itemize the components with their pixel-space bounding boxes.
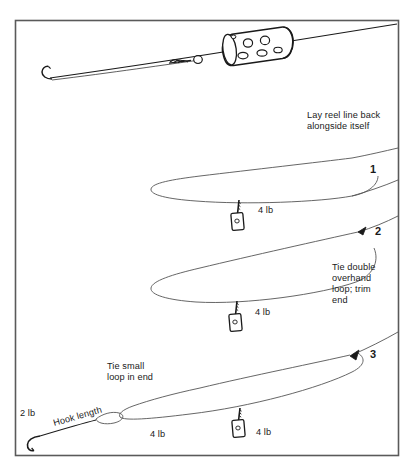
feeder-weight-icon (232, 408, 245, 437)
weight-label-step1: 4 lb (258, 205, 273, 216)
step-1-tag-line (352, 180, 398, 196)
step-2-arrow-icon (358, 227, 366, 235)
weight-label-hook-length: 2 lb (20, 408, 35, 419)
weight-label-step2: 4 lb (255, 307, 270, 318)
step-1-reel-line (352, 148, 398, 158)
step-marker-1: 1 (370, 163, 376, 176)
assembled-rig-top (42, 24, 397, 80)
annotation-lay-line-back: Lay reel line back alongside itself (307, 110, 380, 132)
diagram-frame (16, 21, 399, 456)
annotation-tie-double-overhand: Tie double overhand loop; trim end (332, 262, 376, 305)
step-3-loop (120, 352, 364, 419)
diagram-canvas (0, 0, 415, 474)
weight-label-step3-left: 4 lb (150, 429, 165, 440)
step-marker-2: 2 (375, 225, 381, 238)
annotation-tie-small-loop: Tie small loop in end (107, 361, 153, 383)
hook-length-line-top (52, 60, 200, 80)
weight-label-step3-right: 4 lb (256, 427, 271, 438)
feeder-weight-icon (231, 200, 244, 230)
feeder-weight-icon (229, 301, 242, 331)
swimfeeder-icon (221, 27, 293, 66)
bead-icon (194, 56, 203, 64)
hook-icon (27, 436, 40, 451)
step-3-diagram (27, 332, 398, 451)
step-marker-3: 3 (370, 348, 376, 361)
step-1-diagram (151, 148, 398, 230)
hook-icon (42, 66, 52, 79)
step-3-arrow-icon (350, 350, 359, 360)
fishing-rig-diagram: Lay reel line back alongside itself 1 4 … (0, 0, 415, 474)
step-1-loop (151, 158, 378, 203)
